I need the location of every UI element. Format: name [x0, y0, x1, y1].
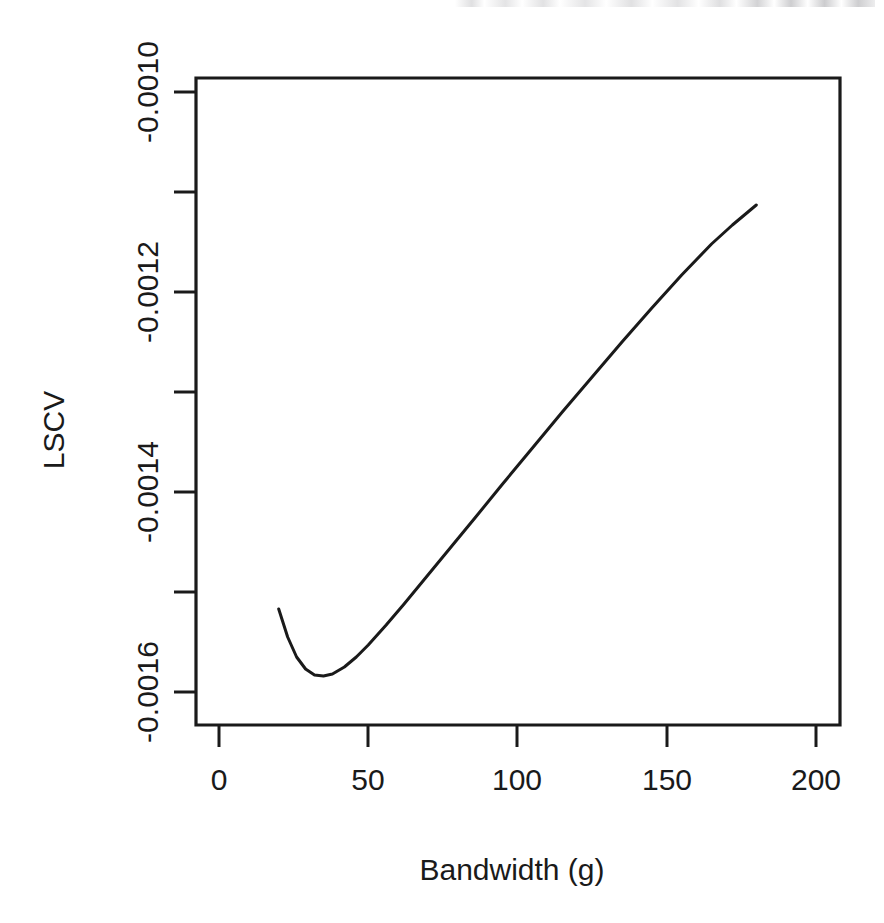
y-axis-ticks	[174, 92, 196, 692]
x-tick-label-50: 50	[351, 763, 384, 796]
y-tick-label-3: -0.0016	[131, 641, 164, 743]
x-axis-ticks	[219, 725, 816, 747]
y-axis-tick-labels: -0.0010 -0.0012 -0.0014 -0.0016	[131, 41, 164, 743]
x-axis-title: Bandwidth (g)	[419, 853, 604, 886]
chart-svg: -0.0010 -0.0012 -0.0014 -0.0016 0 50 100…	[0, 0, 884, 923]
lscv-curve	[279, 205, 757, 676]
y-tick-label-1: -0.0012	[131, 241, 164, 343]
x-tick-label-0: 0	[211, 763, 228, 796]
y-tick-label-0: -0.0010	[131, 41, 164, 143]
plot-box-frame	[196, 78, 840, 725]
x-tick-label-150: 150	[642, 763, 692, 796]
x-tick-label-200: 200	[791, 763, 841, 796]
y-tick-label-2: -0.0014	[131, 441, 164, 543]
x-axis-tick-labels: 0 50 100 150 200	[211, 763, 841, 796]
y-axis-title: LSCV	[37, 391, 70, 469]
lscv-bandwidth-chart: -0.0010 -0.0012 -0.0014 -0.0016 0 50 100…	[0, 0, 884, 923]
x-tick-label-100: 100	[492, 763, 542, 796]
